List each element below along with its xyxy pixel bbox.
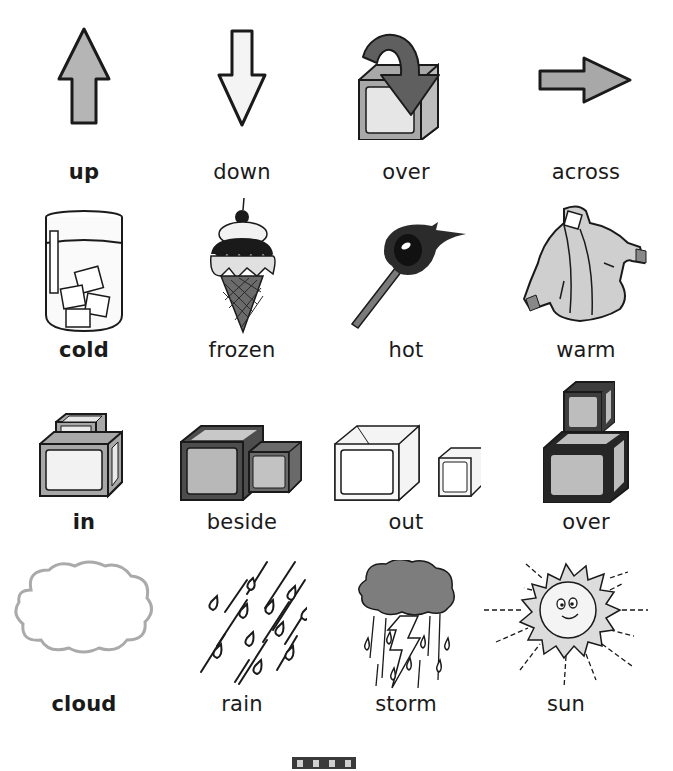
word-label: over <box>502 510 670 534</box>
burning-match-icon <box>322 218 490 330</box>
box-in-box-icon <box>0 404 168 500</box>
curved-arrow-over-box-icon <box>322 25 490 140</box>
up-arrow-icon <box>0 25 168 130</box>
word-label: in <box>0 510 168 534</box>
footer-mark-square <box>297 760 303 767</box>
storm-cloud-icon <box>322 560 490 690</box>
down-arrow-icon <box>158 28 326 133</box>
footer-mark-square <box>313 760 319 767</box>
right-arrow-icon <box>502 55 670 105</box>
page-footer-mark <box>292 757 356 769</box>
box-over-box-icon <box>502 378 670 504</box>
box-beside-box-icon <box>158 422 326 502</box>
footer-mark-square <box>329 760 335 767</box>
footer-mark-square <box>345 760 351 767</box>
word-label: beside <box>158 510 326 534</box>
ice-cream-cone-icon <box>158 196 326 334</box>
word-label: rain <box>158 692 326 716</box>
word-label: sun <box>482 692 650 716</box>
rain-icon <box>158 560 326 686</box>
word-label: across <box>502 160 670 184</box>
word-label: cloud <box>0 692 168 716</box>
cloud-icon <box>0 560 168 658</box>
word-label: down <box>158 160 326 184</box>
word-label: out <box>322 510 490 534</box>
box-out-of-box-icon <box>322 422 490 504</box>
word-label: up <box>0 160 168 184</box>
word-label: hot <box>322 338 490 362</box>
winter-jacket-icon <box>502 203 670 327</box>
word-label: frozen <box>158 338 326 362</box>
word-label: cold <box>0 338 168 362</box>
glass-of-ice-icon <box>0 207 168 335</box>
word-label: over <box>322 160 490 184</box>
smiling-sun-icon <box>482 560 650 688</box>
word-label: warm <box>502 338 670 362</box>
word-label: storm <box>322 692 490 716</box>
